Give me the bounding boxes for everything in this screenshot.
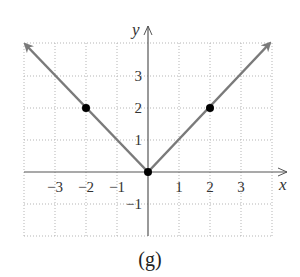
y-tick-label: 1 xyxy=(135,132,143,148)
x-tick-label: 2 xyxy=(206,179,214,195)
data-point xyxy=(144,168,152,176)
x-tick-label: −1 xyxy=(109,179,125,195)
absolute-value-graph: −3−2−1123−1123 x y (g) xyxy=(0,0,300,277)
x-tick-label: 3 xyxy=(237,179,245,195)
x-tick-label: 1 xyxy=(175,179,183,195)
y-tick-label: 2 xyxy=(135,100,143,116)
data-point xyxy=(82,104,90,112)
y-axis-label: y xyxy=(130,20,140,39)
y-tick-label: 3 xyxy=(135,68,143,84)
x-tick-label: −3 xyxy=(47,179,63,195)
y-tick-label: −1 xyxy=(126,196,142,212)
data-point xyxy=(206,104,214,112)
tick-labels: −3−2−1123−1123 xyxy=(47,68,245,212)
x-axis-label: x xyxy=(278,175,287,194)
x-tick-label: −2 xyxy=(78,179,94,195)
figure-caption: (g) xyxy=(138,248,161,271)
